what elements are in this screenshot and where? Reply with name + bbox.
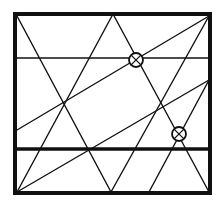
diagonal-bottomleft-to-apex <box>17 14 113 192</box>
geometry-diagram <box>0 0 218 210</box>
diagonal-left-to-topright <box>17 16 209 130</box>
circled-cross-marker-lower-icon <box>172 127 186 141</box>
circled-cross-marker-upper-icon <box>129 53 143 67</box>
diagonal-lines <box>17 14 209 192</box>
outer-frame <box>15 14 210 193</box>
frame <box>15 14 210 193</box>
